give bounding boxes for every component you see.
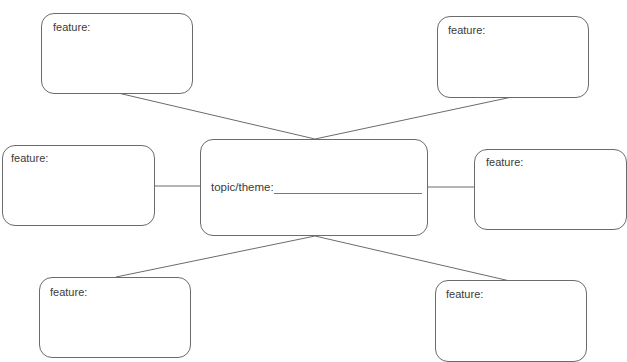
feature-box-left[interactable]: feature: [2, 145, 155, 226]
connector-bottom-right [315, 236, 510, 281]
feature-box-bottom-right[interactable]: feature: [435, 280, 587, 362]
feature-label: feature: [53, 21, 90, 33]
feature-label: feature: [448, 24, 485, 36]
connector-bottom-left [116, 236, 315, 277]
feature-box-right[interactable]: feature: [474, 149, 627, 230]
feature-label: feature: [11, 152, 48, 164]
feature-box-bottom-left[interactable]: feature: [39, 277, 191, 358]
connector-top-left [118, 93, 315, 139]
central-topic-box[interactable]: topic/theme: [200, 139, 428, 236]
feature-label: feature: [50, 286, 87, 298]
topic-theme-text: topic/theme: [211, 181, 274, 193]
topic-blank-line[interactable] [274, 181, 422, 194]
connector-top-right [315, 97, 512, 139]
feature-label: feature: [486, 156, 523, 168]
feature-box-top-left[interactable]: feature: [41, 13, 193, 94]
topic-theme-label: topic/theme: [211, 181, 422, 194]
feature-label: feature: [446, 288, 483, 300]
feature-box-top-right[interactable]: feature: [437, 16, 589, 98]
